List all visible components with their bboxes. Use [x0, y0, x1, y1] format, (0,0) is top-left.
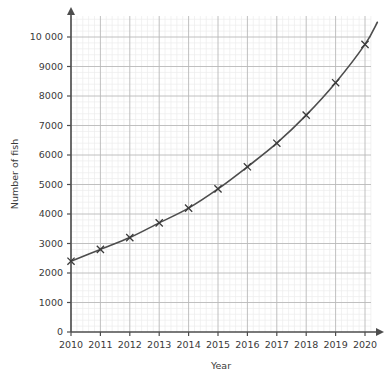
y-tick-label: 1000 — [39, 297, 63, 308]
y-tick-label: 4000 — [39, 208, 63, 219]
y-tick-label: 0 — [57, 326, 63, 337]
x-tick-label: 2020 — [353, 339, 377, 350]
x-tick-label: 2013 — [147, 339, 171, 350]
y-axis-tick-labels: 010002000300040005000600070008000900010 … — [30, 31, 63, 337]
x-tick-label: 2018 — [294, 339, 318, 350]
arrow-right-icon — [376, 328, 384, 336]
x-tick-label: 2011 — [88, 339, 112, 350]
x-tick-label: 2010 — [59, 339, 83, 350]
x-tick-label: 2019 — [324, 339, 348, 350]
y-tick-label: 6000 — [39, 149, 63, 160]
y-tick-label: 3000 — [39, 238, 63, 249]
y-tick-label: 10 000 — [30, 31, 63, 42]
x-axis-title: Year — [210, 360, 231, 371]
y-tick-label: 9000 — [39, 61, 63, 72]
x-tick-label: 2017 — [265, 339, 289, 350]
x-axis-tick-labels: 2010201120122013201420152016201720182019… — [59, 339, 377, 350]
x-tick-label: 2015 — [206, 339, 230, 350]
y-tick-label: 5000 — [39, 179, 63, 190]
x-tick-label: 2012 — [118, 339, 142, 350]
y-tick-label: 8000 — [39, 90, 63, 101]
chart-svg: 010002000300040005000600070008000900010 … — [0, 0, 391, 374]
y-tick-label: 2000 — [39, 267, 63, 278]
fish-population-chart: 010002000300040005000600070008000900010 … — [0, 0, 391, 374]
x-tick-label: 2014 — [177, 339, 201, 350]
y-axis-title: Number of fish — [9, 139, 20, 209]
y-tick-label: 7000 — [39, 120, 63, 131]
x-tick-label: 2016 — [235, 339, 259, 350]
arrow-up-icon — [67, 7, 75, 15]
